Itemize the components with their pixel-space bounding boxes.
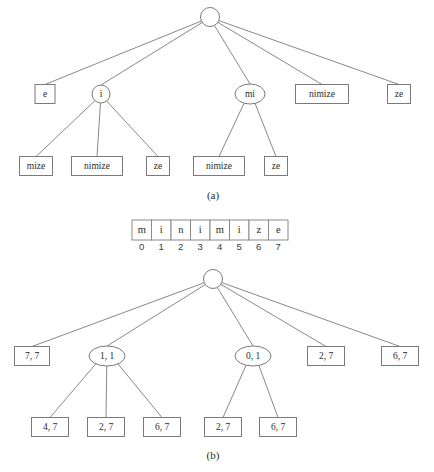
node-label: nimize bbox=[206, 161, 232, 171]
tree-edge bbox=[101, 22, 202, 85]
tree-edge bbox=[255, 103, 276, 156]
node-b-2-7-2: 2, 7 bbox=[88, 418, 125, 437]
figure-caption: (a) bbox=[207, 189, 220, 202]
node-label: 2, 7 bbox=[319, 351, 334, 361]
node-label: e bbox=[43, 89, 47, 99]
node-shape bbox=[204, 270, 223, 289]
node-shape bbox=[201, 8, 220, 27]
node-label: ze bbox=[395, 89, 403, 99]
array-cell-char: i bbox=[238, 224, 241, 235]
tree-edge bbox=[106, 101, 158, 157]
node-label: mize bbox=[27, 161, 45, 171]
tree-edge bbox=[97, 103, 101, 157]
tree-edge bbox=[50, 364, 96, 418]
array-index-label: 5 bbox=[237, 241, 242, 252]
node-label: ze bbox=[272, 161, 280, 171]
tree-edge bbox=[219, 21, 399, 85]
array-index-label: 3 bbox=[198, 241, 203, 252]
node-a-ze-2: ze bbox=[147, 157, 170, 176]
node-a-nimize: nimize bbox=[296, 85, 349, 104]
node-label: ze bbox=[154, 161, 162, 171]
node-a-nimize-3: nimize bbox=[194, 157, 245, 176]
tree-edge bbox=[118, 364, 162, 418]
node-a-ze: ze bbox=[388, 85, 411, 104]
array-cell-char: n bbox=[178, 224, 184, 235]
array-cell-char: i bbox=[160, 224, 163, 235]
figure-caption: (b) bbox=[207, 449, 220, 462]
node-b-6-7-3: 6, 7 bbox=[260, 418, 297, 437]
tree-edge bbox=[36, 101, 95, 157]
tree-edge bbox=[107, 284, 205, 346]
node-label: 2, 7 bbox=[216, 422, 231, 432]
array-layer: minimize01234567 bbox=[132, 220, 288, 252]
array-index-label: 4 bbox=[217, 241, 222, 252]
array-index-label: 1 bbox=[159, 241, 164, 252]
tree-edge bbox=[106, 366, 107, 418]
tree-edge bbox=[219, 103, 244, 156]
node-b-6-7: 6, 7 bbox=[382, 347, 419, 366]
array-cell-char: m bbox=[216, 224, 224, 235]
array-index-label: 7 bbox=[276, 241, 281, 252]
node-label: 0, 1 bbox=[246, 351, 261, 361]
tree-edge bbox=[223, 365, 246, 417]
tree-edge bbox=[259, 365, 278, 417]
node-label: nimize bbox=[84, 161, 110, 171]
root-a bbox=[201, 8, 220, 27]
node-a-i: i bbox=[92, 85, 110, 103]
tree-edge bbox=[214, 25, 250, 84]
array-cell-char: m bbox=[138, 224, 146, 235]
array-cell-char: e bbox=[276, 224, 281, 235]
node-label: 7, 7 bbox=[25, 351, 40, 361]
node-b-1-1: 1, 1 bbox=[89, 346, 125, 366]
tree-edge bbox=[221, 284, 326, 346]
node-b-0-1: 0, 1 bbox=[235, 346, 271, 366]
tree-edge bbox=[222, 283, 400, 347]
tree-edge bbox=[218, 22, 322, 84]
node-b-2-7: 2, 7 bbox=[308, 347, 345, 366]
node-label: 6, 7 bbox=[271, 422, 286, 432]
node-a-nimize-2: nimize bbox=[72, 157, 123, 176]
node-b-4-7: 4, 7 bbox=[32, 418, 69, 437]
node-a-ze-3: ze bbox=[265, 157, 288, 176]
array-index-label: 0 bbox=[139, 241, 144, 252]
tree-edge bbox=[217, 287, 253, 346]
node-label: mi bbox=[245, 89, 255, 99]
tree-edge bbox=[32, 283, 204, 347]
node-label: 6, 7 bbox=[393, 351, 408, 361]
node-a-e: e bbox=[35, 85, 55, 104]
root-b bbox=[204, 270, 223, 289]
node-b-6-7-2: 6, 7 bbox=[144, 418, 181, 437]
node-a-mize: mize bbox=[20, 157, 53, 176]
node-label: i bbox=[100, 89, 103, 99]
node-label: 6, 7 bbox=[155, 422, 170, 432]
node-label: 4, 7 bbox=[43, 422, 58, 432]
suffix-tree-figure: eiminimizezemizenimizezenimizeze7, 71, 1… bbox=[0, 0, 434, 472]
node-label: 1, 1 bbox=[100, 351, 115, 361]
tree-edge bbox=[45, 21, 202, 85]
array-index-label: 6 bbox=[256, 241, 261, 252]
node-label: 2, 7 bbox=[99, 422, 114, 432]
node-b-2-7-3: 2, 7 bbox=[205, 418, 242, 437]
array-cell-char: i bbox=[199, 224, 202, 235]
array-index-label: 2 bbox=[178, 241, 183, 252]
node-a-mi: mi bbox=[235, 84, 265, 104]
array-cell-char: z bbox=[256, 224, 261, 235]
node-label: nimize bbox=[309, 89, 335, 99]
node-b-7-7: 7, 7 bbox=[15, 347, 50, 366]
